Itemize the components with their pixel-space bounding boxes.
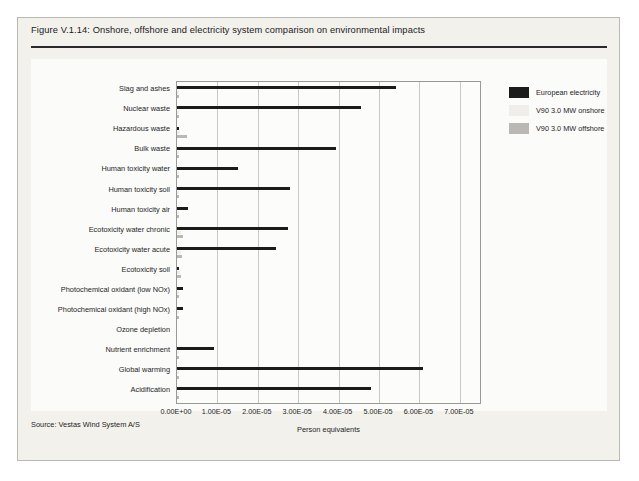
- bar-european-electricity: [177, 167, 238, 170]
- x-tick-label: 3.00E-05: [283, 407, 312, 416]
- bar-v90-offshore: [177, 155, 179, 158]
- bar-group: [177, 222, 480, 242]
- source-note: Source: Vestas Wind System A/S: [31, 420, 140, 429]
- x-tick-label: 4.00E-05: [323, 407, 352, 416]
- bar-european-electricity: [177, 367, 423, 370]
- category-label: Nutrient enrichment: [106, 345, 171, 354]
- bar-v90-onshore: [177, 231, 181, 234]
- category-label: Nuclear waste: [123, 104, 170, 113]
- bar-european-electricity: [177, 227, 288, 230]
- category-label: Ozone depletion: [116, 324, 170, 333]
- x-tick-label: 5.00E-05: [363, 407, 392, 416]
- bar-european-electricity: [177, 127, 179, 130]
- category-label: Bulk waste: [134, 144, 170, 153]
- legend-label: European electricity: [536, 88, 600, 97]
- legend-swatch-icon: [509, 123, 529, 134]
- bar-european-electricity: [177, 187, 290, 190]
- category-label: Acidification: [131, 385, 170, 394]
- x-axis-ticks: 0.00E+001.00E-052.00E-053.00E-054.00E-05…: [176, 406, 481, 420]
- figure-page: Figure V.1.14: Onshore, offshore and ele…: [0, 0, 639, 481]
- bar-european-electricity: [177, 267, 179, 270]
- bar-group: [177, 263, 480, 283]
- bar-group: [177, 102, 480, 122]
- bar-group: [177, 142, 480, 162]
- bar-v90-onshore: [177, 171, 179, 174]
- bar-v90-onshore: [177, 291, 179, 294]
- bar-v90-onshore: [177, 91, 179, 94]
- bar-v90-offshore: [177, 235, 183, 238]
- category-label: Hazardous waste: [113, 124, 170, 133]
- category-label: Human toxicity water: [101, 164, 170, 173]
- bar-european-electricity: [177, 86, 396, 89]
- legend: European electricity V90 3.0 MW onshore …: [509, 87, 605, 141]
- bar-v90-offshore: [177, 295, 179, 298]
- bar-v90-offshore: [177, 255, 182, 258]
- category-label: Human toxicity air: [111, 204, 170, 213]
- bar-v90-onshore: [177, 191, 179, 194]
- category-label: Global warming: [119, 365, 170, 374]
- bar-european-electricity: [177, 106, 361, 109]
- bar-group: [177, 363, 480, 383]
- chart-canvas: Slag and ashesNuclear wasteHazardous was…: [31, 59, 607, 411]
- bar-european-electricity: [177, 147, 336, 150]
- x-axis-title: Person equivalents: [176, 425, 481, 434]
- bar-v90-offshore: [177, 115, 179, 118]
- bar-european-electricity: [177, 287, 183, 290]
- x-tick-label: 7.00E-05: [444, 407, 473, 416]
- category-label: Ecotoxicity soil: [122, 264, 170, 273]
- bar-european-electricity: [177, 347, 214, 350]
- x-tick-label: 0.00E+00: [161, 407, 192, 416]
- bar-v90-offshore: [177, 195, 179, 198]
- legend-item-v90-onshore: V90 3.0 MW onshore: [509, 105, 605, 116]
- bar-group: [177, 343, 480, 363]
- bar-v90-offshore: [177, 316, 179, 319]
- bar-v90-onshore: [177, 311, 179, 314]
- x-tick-label: 1.00E-05: [202, 407, 231, 416]
- bar-v90-onshore: [177, 111, 179, 114]
- bar-v90-offshore: [177, 135, 187, 138]
- plot-area: [176, 81, 481, 404]
- category-label: Photochemical oxidant (high NOx): [58, 304, 170, 313]
- bar-group: [177, 162, 480, 182]
- x-tick-label: 2.00E-05: [242, 407, 271, 416]
- figure-title-band: Figure V.1.14: Onshore, offshore and ele…: [18, 18, 619, 48]
- x-tick-label: 6.00E-05: [404, 407, 433, 416]
- bar-european-electricity: [177, 307, 183, 310]
- bar-group: [177, 122, 480, 142]
- legend-swatch-icon: [509, 105, 529, 116]
- bar-group: [177, 202, 480, 222]
- bar-v90-onshore: [177, 271, 180, 274]
- legend-item-european-electricity: European electricity: [509, 87, 605, 98]
- category-label: Ecotoxicity water acute: [94, 244, 170, 253]
- category-label: Photochemical oxidant (low NOx): [61, 284, 170, 293]
- bar-european-electricity: [177, 207, 188, 210]
- bar-rows: [177, 82, 480, 403]
- bar-v90-onshore: [177, 131, 180, 134]
- bar-group: [177, 283, 480, 303]
- bar-european-electricity: [177, 247, 276, 250]
- page-title: Figure V.1.14: Onshore, offshore and ele…: [31, 25, 425, 35]
- title-divider: [31, 46, 607, 48]
- legend-item-v90-offshore: V90 3.0 MW offshore: [509, 123, 605, 134]
- bar-v90-onshore: [177, 151, 179, 154]
- figure-frame: Figure V.1.14: Onshore, offshore and ele…: [17, 17, 620, 461]
- legend-swatch-icon: [509, 87, 529, 98]
- bar-group: [177, 323, 480, 343]
- bar-v90-offshore: [177, 396, 179, 399]
- bar-group: [177, 82, 480, 102]
- category-label: Slag and ashes: [119, 84, 170, 93]
- bar-v90-onshore: [177, 211, 179, 214]
- bar-v90-offshore: [177, 376, 179, 379]
- bar-v90-offshore: [177, 95, 179, 98]
- bar-european-electricity: [177, 387, 371, 390]
- category-label: Human toxicity soil: [108, 184, 170, 193]
- bar-v90-onshore: [177, 392, 179, 395]
- legend-label: V90 3.0 MW onshore: [536, 106, 605, 115]
- bar-group: [177, 182, 480, 202]
- bar-v90-offshore: [177, 356, 179, 359]
- bar-group: [177, 303, 480, 323]
- bar-v90-offshore: [177, 175, 179, 178]
- bar-v90-offshore: [177, 215, 179, 218]
- category-label: Ecotoxicity water chronic: [89, 224, 170, 233]
- bar-v90-onshore: [177, 371, 179, 374]
